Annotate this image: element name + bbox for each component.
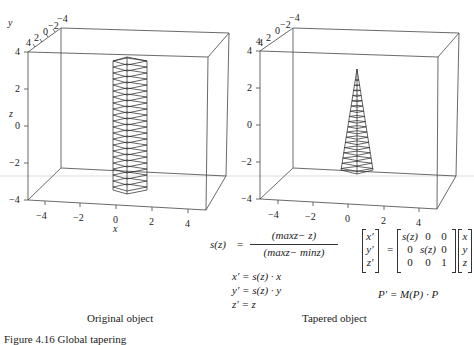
x-equation: x′ = s(z) · x (232, 270, 281, 282)
m02: 0 (434, 230, 454, 242)
svg-text:4: 4 (185, 218, 190, 229)
m10: 0 (400, 243, 420, 255)
rhs-x: x (455, 230, 474, 242)
svg-text:2: 2 (34, 32, 39, 43)
svg-text:−2: −2 (9, 157, 20, 168)
pyramid-mesh-tapered (341, 69, 373, 174)
s-lhs: s(z) (210, 238, 226, 250)
svg-text:−4: −4 (9, 194, 20, 205)
svg-text:4: 4 (15, 46, 20, 57)
s-numerator: (maxz− z) (250, 229, 338, 241)
caption-tapered: Tapered object (302, 312, 367, 324)
svg-text:2: 2 (149, 216, 154, 227)
figure-caption: Figure 4.16 Global tapering (4, 333, 126, 345)
axis-labels-tapered: 4 2 0 −2 −4 −4 −2 0 2 4 4 2 0 −2 −4 4 (241, 12, 421, 228)
svg-text:2: 2 (381, 215, 386, 226)
svg-text:−2: −2 (241, 156, 252, 167)
s-denominator: (maxz− minz) (250, 246, 338, 258)
column-mesh-original (113, 57, 147, 194)
svg-text:4: 4 (256, 36, 261, 46)
m00: s(z) (400, 230, 420, 242)
svg-text:0: 0 (15, 120, 20, 131)
svg-text:4: 4 (247, 45, 252, 56)
svg-text:2: 2 (15, 83, 20, 94)
svg-text:−4: −4 (289, 12, 300, 23)
lhs-y: y′ (360, 243, 380, 255)
svg-text:0: 0 (345, 213, 350, 224)
fraction-bar (250, 244, 338, 245)
svg-text:2: 2 (247, 82, 252, 93)
y-axis-label: y (7, 17, 13, 28)
caption-original: Original object (87, 312, 153, 324)
p-equation: P′ = M(P) · P (378, 288, 438, 300)
m12: 0 (434, 243, 454, 255)
svg-text:4: 4 (416, 217, 421, 228)
svg-text:−2: −2 (73, 212, 84, 223)
rhs-y: y (455, 243, 474, 255)
svg-text:0: 0 (247, 119, 252, 130)
m20: 0 (400, 256, 420, 268)
m22: 1 (434, 256, 454, 268)
lhs-z: z′ (360, 256, 380, 268)
rhs-z: z (455, 256, 474, 268)
lhs-x: x′ (360, 230, 380, 242)
svg-text:−2: −2 (305, 211, 316, 222)
svg-text:−4: −4 (57, 13, 68, 24)
y-equation: y′ = s(z) · y (232, 284, 281, 296)
svg-text:−4: −4 (241, 193, 252, 204)
plot-original (24, 28, 229, 213)
svg-text:−4: −4 (36, 210, 47, 221)
plot-tapered (256, 28, 459, 212)
svg-text:0: 0 (113, 214, 118, 225)
svg-text:2: 2 (266, 32, 271, 43)
z-equation: z′ = z (232, 298, 256, 310)
svg-text:4: 4 (26, 37, 31, 48)
s-equals: = (237, 238, 243, 250)
z-axis-label: z (8, 108, 13, 119)
svg-text:−4: −4 (268, 209, 279, 220)
